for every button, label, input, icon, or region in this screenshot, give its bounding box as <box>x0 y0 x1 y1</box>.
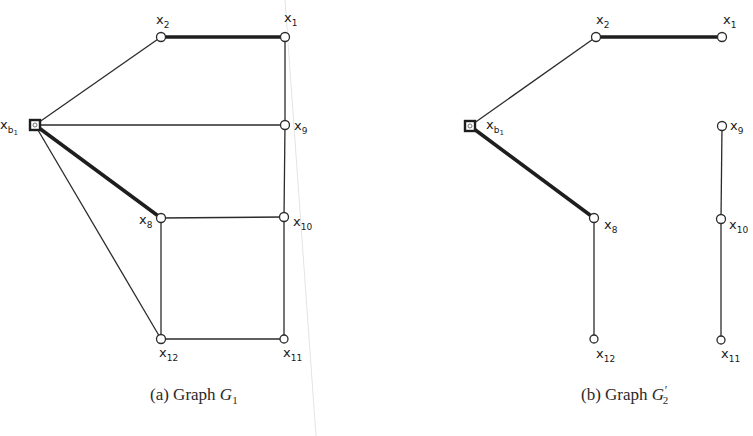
edge-xb1-x8-bold <box>470 126 594 218</box>
node-x2 <box>157 33 166 42</box>
label-x12: x12 <box>596 346 615 364</box>
node-x8 <box>590 214 599 223</box>
node-x9 <box>718 122 727 131</box>
edge-xb1-x8-bold <box>35 125 161 218</box>
graph-g1: xb1 x2 x1 x9 x8 x10 x12 x11 (a) Graph G1 <box>0 10 312 406</box>
edge-x9-x10 <box>721 126 722 219</box>
label-x10: x10 <box>293 214 312 232</box>
label-x11: x11 <box>283 345 302 363</box>
node-x11 <box>717 336 725 344</box>
label-x10: x10 <box>729 217 748 235</box>
edge-xb1-x2 <box>35 37 161 125</box>
label-x2: x2 <box>596 12 609 30</box>
label-x2: x2 <box>156 12 169 30</box>
node-x11 <box>280 335 288 343</box>
node-x10 <box>717 215 726 224</box>
label-xb1: xb1 <box>486 117 504 137</box>
node-x12 <box>157 335 166 344</box>
label-x1: x1 <box>723 12 736 30</box>
graph-g1-labels: xb1 x2 x1 x9 x8 x10 x12 x11 <box>0 10 312 363</box>
graph-g1-edges <box>35 37 285 339</box>
graph-g2-prime-edges <box>470 37 722 340</box>
label-xb1: xb1 <box>0 117 18 137</box>
figure-canvas: xb1 x2 x1 x9 x8 x10 x12 x11 (a) Graph G1 <box>0 0 753 436</box>
graph-g2-prime: xb1 x2 x1 x9 x8 x10 x12 x11 (b) Graph G′… <box>465 12 748 406</box>
node-xb1-inner <box>468 124 472 128</box>
node-x1 <box>281 33 290 42</box>
graph-g2-prime-nodes <box>465 33 727 345</box>
edge-x8-x10 <box>161 217 284 218</box>
node-x10 <box>280 213 289 222</box>
label-x8: x8 <box>604 217 618 235</box>
caption-graph-g1: (a) Graph G1 <box>150 385 238 406</box>
edge-xb1-x2 <box>470 37 596 126</box>
label-x1: x1 <box>284 10 297 28</box>
graph-g1-nodes <box>30 33 290 344</box>
node-x12 <box>590 335 598 343</box>
edge-xb1-x12 <box>35 125 161 339</box>
label-x11: x11 <box>721 346 740 364</box>
node-x8 <box>157 214 166 223</box>
edge-x9-x10 <box>284 125 285 217</box>
graph-g2-prime-labels: xb1 x2 x1 x9 x8 x10 x12 x11 <box>486 12 748 364</box>
node-x1 <box>718 33 727 42</box>
caption-graph-g2-prime: (b) Graph G′2 <box>581 383 668 406</box>
node-x9 <box>281 121 290 130</box>
label-x12: x12 <box>159 345 178 363</box>
label-x9: x9 <box>730 118 744 136</box>
label-x8: x8 <box>139 212 153 230</box>
node-xb1-inner <box>33 123 37 127</box>
node-x2 <box>592 33 601 42</box>
label-x9: x9 <box>294 118 308 136</box>
